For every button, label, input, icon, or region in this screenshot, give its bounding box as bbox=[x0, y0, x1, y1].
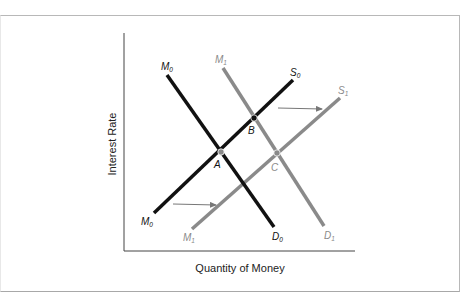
curve-label-s1: S1 bbox=[338, 85, 349, 97]
curve-label-s0: S0 bbox=[290, 67, 301, 79]
curve-label-m0-bottom: M0 bbox=[141, 216, 153, 228]
y-axis-title: Interest Rate bbox=[106, 113, 118, 176]
point-label-b: B bbox=[248, 125, 255, 136]
lower-shift-arrow bbox=[173, 204, 216, 205]
equilibrium-point-b bbox=[251, 115, 257, 121]
curve-label-m1-top: M1 bbox=[215, 54, 227, 66]
x-axis-title: Quantity of Money bbox=[195, 262, 285, 274]
point-label-a: A bbox=[213, 159, 221, 170]
money-market-diagram: Interest Rate Quantity of Money A B C M0… bbox=[0, 0, 474, 305]
curve-label-m1-bottom: M1 bbox=[183, 232, 195, 244]
point-label-c: C bbox=[271, 162, 279, 173]
upper-shift-arrow bbox=[278, 108, 322, 109]
equilibrium-point-c bbox=[274, 150, 280, 156]
demand-curve-m1-d1 bbox=[223, 68, 324, 226]
equilibrium-point-a bbox=[218, 149, 224, 155]
curve-label-d1: D1 bbox=[324, 230, 335, 242]
curve-label-d0: D0 bbox=[272, 231, 283, 243]
curve-label-m0-top: M0 bbox=[161, 61, 173, 73]
